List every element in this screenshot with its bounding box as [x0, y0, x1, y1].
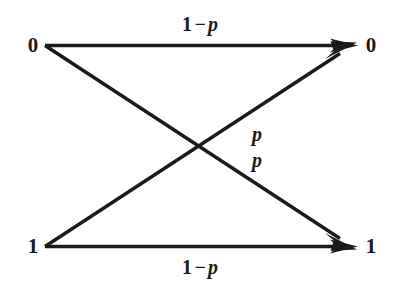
edge-in1-to-out0 — [45, 41, 357, 246]
edge-label-crossover-lower: p — [252, 150, 276, 170]
edge-label-bottom-lead: 1 — [182, 256, 193, 278]
edge-label-bottom-symbol: p — [208, 256, 218, 278]
edge-label-crossover-upper: p — [252, 124, 276, 144]
edge-label-top-operator: − — [193, 13, 208, 35]
output-node-label-1: 1 — [359, 236, 383, 257]
edge-in1-to-out1 — [45, 240, 358, 254]
edge-label-top-lead: 1 — [182, 13, 193, 35]
input-node-label-1: 1 — [21, 236, 45, 257]
edge-label-crossover-lower-symbol: p — [252, 149, 262, 171]
input-node-label-0: 0 — [21, 35, 45, 56]
channel-graph-svg — [0, 0, 398, 286]
output-node-label-0: 0 — [359, 35, 383, 56]
edge-label-bottom-operator: − — [193, 256, 208, 278]
edge-label-top-symbol: p — [208, 13, 218, 35]
edge-in0-to-out0 — [45, 39, 358, 53]
edge-in0-to-out1-line — [45, 46, 340, 239]
channel-diagram: 0 1 0 1 1−p 1−p p p — [0, 0, 398, 286]
edge-label-crossover-upper-symbol: p — [252, 123, 262, 145]
edge-in1-to-out0-line — [45, 54, 340, 247]
edge-label-bottom-transition: 1−p — [155, 257, 245, 277]
edge-label-top-transition: 1−p — [155, 14, 245, 34]
edge-in0-to-out1 — [45, 46, 357, 251]
